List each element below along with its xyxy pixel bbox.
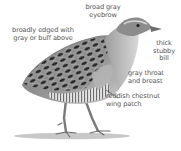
label-eyebrow: broad gray eyebrow	[78, 4, 128, 19]
legs	[64, 100, 98, 132]
label-wing-patch: reddish chestnut wing patch	[106, 93, 181, 108]
label-upperparts: broadly edged with gray or buff above	[4, 27, 82, 42]
bill	[150, 26, 162, 32]
label-throat: gray throat and breast	[128, 70, 180, 85]
eye	[136, 24, 139, 27]
label-bill: thick stubby bill	[148, 40, 180, 63]
ground-shadow	[14, 133, 130, 139]
diagram-canvas: broadly edged with gray or buff above br…	[0, 0, 181, 151]
